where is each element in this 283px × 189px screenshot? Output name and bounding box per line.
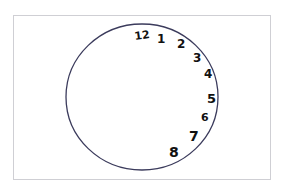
clock-drawing: 1212345678 bbox=[0, 0, 283, 189]
clock-number-12: 12 bbox=[134, 28, 151, 43]
clock-number-5: 5 bbox=[207, 91, 216, 106]
clock-number-2: 2 bbox=[177, 37, 185, 51]
clock-number-4: 4 bbox=[204, 67, 212, 81]
clock-number-6: 6 bbox=[201, 111, 209, 124]
clock-number-8: 8 bbox=[169, 144, 179, 160]
clock-number-1: 1 bbox=[157, 32, 165, 46]
clock-number-7: 7 bbox=[189, 128, 199, 144]
clock-number-3: 3 bbox=[193, 51, 201, 65]
clock-face-circle bbox=[66, 24, 218, 170]
